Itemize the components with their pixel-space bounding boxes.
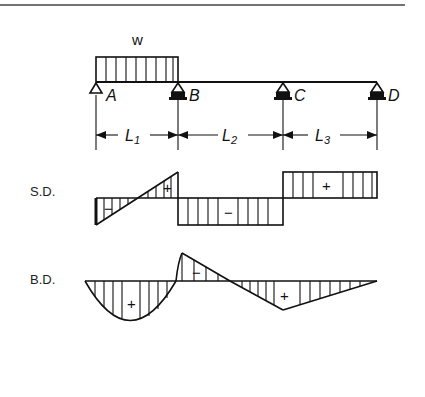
span-2-label: L2 (222, 127, 237, 146)
support-d-roller-icon (368, 83, 386, 100)
span-3-label: L3 (315, 127, 331, 146)
shear-sign-1: − (104, 200, 113, 217)
support-c-roller-icon (274, 83, 292, 100)
continuous-beam-figure: w A B C D L1 (0, 0, 425, 397)
bending-sign-3: + (280, 287, 289, 304)
support-a-label: A (105, 87, 117, 104)
support-b-roller-icon (169, 83, 187, 100)
load-label: w (131, 31, 143, 48)
distributed-load (96, 57, 178, 82)
support-a-pin-icon (90, 83, 102, 93)
bending-sign-1: + (127, 295, 136, 312)
shear-diagram (96, 172, 377, 225)
shear-diagram-label: S.D. (30, 184, 55, 199)
shear-sign-4: + (322, 177, 331, 194)
bending-sign-2: − (192, 264, 201, 281)
span-1-label: L1 (125, 127, 140, 146)
shear-sign-3: − (224, 204, 233, 221)
support-b-label: B (189, 87, 200, 104)
bending-diagram-label: B.D. (30, 272, 55, 287)
shear-sign-2: + (163, 179, 172, 196)
support-d-label: D (388, 87, 400, 104)
support-c-label: C (294, 87, 306, 104)
